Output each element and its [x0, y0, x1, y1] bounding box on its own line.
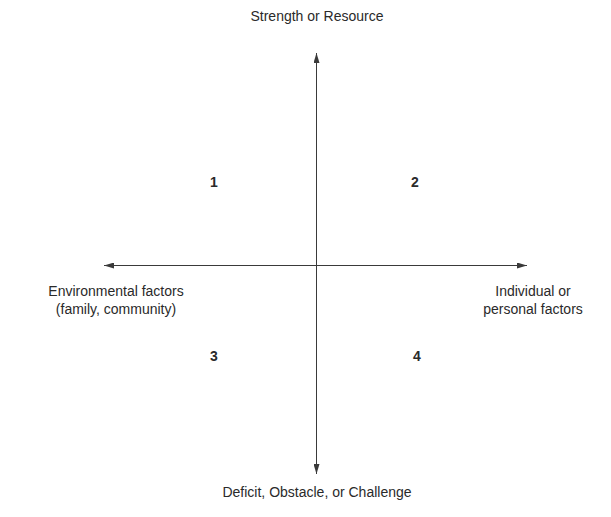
axis-label-left: Environmental factors (family, community… [26, 282, 206, 318]
axes [0, 0, 611, 517]
axis-label-left-line1: Environmental factors [26, 282, 206, 300]
axis-label-right-line2: personal factors [458, 300, 608, 318]
quadrant-4-label: 4 [413, 348, 421, 364]
axis-label-left-line2: (family, community) [26, 300, 206, 318]
quadrant-3-label: 3 [210, 348, 218, 364]
axis-label-right: Individual or personal factors [458, 282, 608, 318]
quadrant-diagram: Strength or Resource Deficit, Obstacle, … [0, 0, 611, 517]
quadrant-2-label: 2 [411, 174, 419, 190]
axis-label-right-line1: Individual or [458, 282, 608, 300]
quadrant-1-label: 1 [210, 174, 218, 190]
axis-label-top: Strength or Resource [217, 7, 417, 25]
axis-label-bottom: Deficit, Obstacle, or Challenge [207, 483, 427, 501]
